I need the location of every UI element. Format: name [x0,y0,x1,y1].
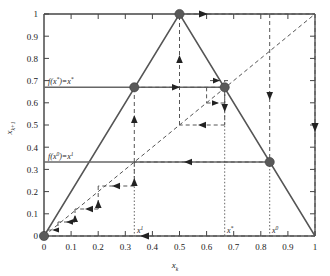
y-tick-2: 0.2 [27,187,38,197]
x0-sup: 0 [276,225,279,231]
y-tick-10: 1 [34,9,39,19]
x-tick-2: 0.2 [93,242,104,252]
svg-text:f(x*)=x*: f(x*)=x* [48,76,74,86]
annotation-fx-star: f(x*)=x* [48,76,74,86]
x1-sup: 1 [141,225,144,231]
y-tick-7: 0.7 [27,76,39,86]
marker-x1 [130,83,139,92]
y-tick-0: 0 [34,231,39,241]
marker-tent-peak [175,9,184,18]
x-axis-title: xk [171,260,179,272]
svg-text:xk+1: xk+1 [4,121,16,135]
x-tick-8: 0.8 [255,242,267,252]
x-tick-3: 0.3 [120,242,132,252]
fx-zero-mid: )=x [58,152,71,161]
y-tick-3: 0.3 [27,165,39,175]
x-axis-title-sub: k [176,266,179,272]
marker-x0-iterate [265,157,274,166]
svg-text:x1: x1 [136,225,144,235]
svg-text:xk: xk [171,260,179,272]
x-tick-7: 0.7 [228,242,240,252]
svg-text:x*: x* [226,225,234,235]
y-tick-8: 0.8 [27,54,39,64]
y-tick-4: 0.4 [27,143,39,153]
y-tick-6: 0.6 [27,98,39,108]
x-tick-4: 0.4 [147,242,159,252]
y-axis-title-sub: k+1 [10,121,16,130]
y-tick-labels: 0 0.1 0.2 0.3 0.4 0.5 0.6 0.7 0.8 0.9 1 [27,9,39,241]
annotation-x1: x1 [136,225,144,235]
cobweb-plot: 0 0.1 0.2 0.3 0.4 0.5 0.6 0.7 0.8 0.9 1 … [0,0,330,276]
x-tick-1: 0.1 [65,242,76,252]
x-tick-labels: 0 0.1 0.2 0.3 0.4 0.5 0.6 0.7 0.8 0.9 1 [42,242,318,252]
x-tick-10: 1 [313,242,318,252]
x-tick-9: 0.9 [282,242,294,252]
xstar-sup: * [231,225,234,231]
direction-arrows [52,10,319,239]
y-axis-title: xk+1 [4,121,16,135]
annotation-x-star: x* [226,225,234,235]
annotation-fx-zero: f(x0)=x1 [48,151,74,161]
svg-text:x0: x0 [271,225,279,235]
marker-fixed-point [220,83,229,92]
fx-zero-sup2: 1 [71,151,74,157]
figure-root: { "chart_data": { "type": "line", "title… [0,0,330,276]
x-tick-0: 0 [42,242,47,252]
x-tick-5: 0.5 [174,242,186,252]
y-tick-9: 0.9 [27,32,39,42]
annotation-x0: x0 [271,225,279,235]
x-tick-6: 0.6 [201,242,213,252]
fx-star-sup2: * [71,76,74,82]
y-tick-5: 0.5 [27,120,39,130]
y-tick-1: 0.1 [27,209,38,219]
svg-text:f(x0)=x1: f(x0)=x1 [48,151,74,161]
marker-origin [39,231,48,240]
data-markers [39,9,274,240]
fx-star-mid: )=x [58,77,71,86]
